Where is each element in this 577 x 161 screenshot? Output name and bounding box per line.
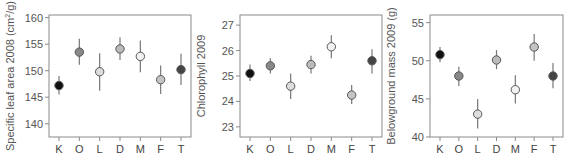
y-tick-label: 50: [412, 55, 424, 67]
plot-frame: [49, 15, 191, 137]
figure: 140145150155160KOLDMFTSpecific leaf area…: [0, 0, 577, 161]
y-axis-label: Belowground mass 2009 (g): [385, 7, 397, 145]
x-tick-label: L: [475, 143, 481, 155]
x-tick-label: M: [136, 143, 145, 155]
data-point-F: [530, 43, 538, 51]
y-tick-label: 150: [25, 65, 43, 77]
data-point-L: [286, 82, 294, 90]
x-tick-label: T: [550, 143, 557, 155]
x-tick-label: F: [531, 143, 538, 155]
y-axis-label: Specific leaf area 2008 (cm2/g): [4, 1, 16, 151]
data-point-D: [116, 45, 124, 53]
data-point-D: [492, 56, 500, 64]
data-point-L: [473, 110, 481, 118]
y-tick-label: 40: [412, 131, 424, 143]
x-tick-label: L: [288, 143, 294, 155]
data-point-M: [136, 52, 144, 60]
x-tick-label: O: [455, 143, 464, 155]
x-tick-label: M: [511, 143, 520, 155]
plot-frame: [240, 15, 382, 137]
y-tick-label: 27: [222, 19, 234, 31]
x-tick-label: K: [246, 143, 254, 155]
y-axis-label: Chlorophyll 2009: [195, 35, 207, 118]
data-point-T: [549, 72, 557, 80]
data-point-K: [246, 69, 254, 77]
panel-1: 140145150155160KOLDMFTSpecific leaf area…: [4, 1, 191, 155]
data-point-D: [307, 60, 315, 68]
y-tick-label: 24: [222, 95, 234, 107]
data-point-K: [436, 50, 444, 58]
y-tick-label: 155: [25, 38, 43, 50]
x-tick-label: T: [369, 143, 376, 155]
data-point-O: [455, 72, 463, 80]
y-tick-label: 25: [222, 70, 234, 82]
x-tick-label: K: [55, 143, 63, 155]
x-tick-label: K: [436, 143, 444, 155]
data-point-O: [75, 48, 83, 56]
x-tick-label: F: [348, 143, 355, 155]
x-tick-label: D: [307, 143, 315, 155]
y-tick-label: 145: [25, 91, 43, 103]
y-tick-label: 45: [412, 93, 424, 105]
data-point-O: [266, 62, 274, 70]
x-tick-label: O: [75, 143, 84, 155]
plot-frame: [430, 15, 563, 137]
data-point-L: [95, 68, 103, 76]
x-tick-label: T: [178, 143, 185, 155]
y-tick-label: 140: [25, 118, 43, 130]
x-tick-label: L: [97, 143, 103, 155]
data-point-M: [327, 43, 335, 51]
data-point-T: [368, 57, 376, 65]
x-tick-label: D: [493, 143, 501, 155]
y-tick-label: 55: [412, 17, 424, 29]
y-tick-label: 23: [222, 121, 234, 133]
x-tick-label: O: [266, 143, 275, 155]
panel-2: 2324252627KOLDMFTChlorophyll 2009: [195, 15, 382, 155]
y-tick-label: 26: [222, 45, 234, 57]
data-point-F: [347, 91, 355, 99]
x-tick-label: M: [327, 143, 336, 155]
panel-3: 40455055KOLDMFTBelowground mass 2009 (g): [385, 7, 563, 155]
data-point-M: [511, 86, 519, 94]
x-tick-label: F: [157, 143, 164, 155]
x-tick-label: D: [116, 143, 124, 155]
data-point-K: [55, 81, 63, 89]
y-tick-label: 160: [25, 12, 43, 24]
data-point-T: [177, 65, 185, 73]
data-point-F: [156, 76, 164, 84]
